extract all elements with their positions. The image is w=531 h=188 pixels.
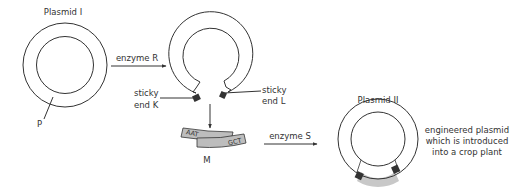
sticky-end-l-label-2: end L bbox=[262, 96, 286, 106]
fragment-m-label: M bbox=[203, 155, 210, 165]
sticky-end-l-block bbox=[219, 91, 227, 99]
sticky-end-l-label-1: sticky bbox=[262, 85, 286, 95]
enzyme-r-label: enzyme R bbox=[116, 53, 158, 63]
sticky-end-k-block bbox=[192, 94, 201, 102]
plasmid-1-label: Plasmid I bbox=[44, 7, 82, 17]
p-label: P bbox=[37, 119, 42, 129]
seq-gct: GCT bbox=[227, 137, 242, 148]
plasmid-1: Plasmid I P bbox=[23, 7, 107, 129]
enzyme-s-label: enzyme S bbox=[269, 131, 311, 141]
sticky-end-k-label-2: end K bbox=[134, 100, 159, 110]
p-pointer-line bbox=[44, 97, 53, 119]
description-line-2: which is introduced bbox=[426, 136, 509, 146]
dna-fragment-m: AAT GCT M bbox=[181, 128, 246, 165]
enzyme-s-step: enzyme S bbox=[264, 131, 317, 144]
plasmid-2: Plasmid II engineered plasmid which is i… bbox=[338, 95, 509, 187]
sticky-end-k-label-1: sticky bbox=[134, 88, 158, 98]
description-line-3: into a crop plant bbox=[432, 147, 503, 157]
plasmid-2-label: Plasmid II bbox=[358, 95, 399, 105]
sticky-end-l-block bbox=[391, 165, 400, 174]
enzyme-r-step: enzyme R bbox=[111, 53, 166, 66]
description-line-1: engineered plasmid bbox=[425, 125, 509, 135]
genetic-engineering-diagram: Plasmid I P enzyme R sticky end K sticky… bbox=[0, 0, 531, 188]
